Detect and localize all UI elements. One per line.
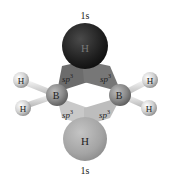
svg-text:H: H <box>20 104 27 114</box>
bridging-h-bottom: H <box>63 117 107 161</box>
svg-text:H: H <box>18 76 25 86</box>
svg-text:H: H <box>81 42 89 54</box>
svg-text:H: H <box>147 76 154 86</box>
boron-left: B <box>46 84 68 106</box>
bridging-h-top: H <box>62 23 108 69</box>
boron-right: B <box>109 84 131 106</box>
svg-text:B: B <box>53 90 60 101</box>
svg-text:B: B <box>116 90 123 101</box>
bottom-orbital-label: 1s <box>81 165 90 176</box>
terminal-h-upper-left: H <box>13 72 29 88</box>
svg-text:H: H <box>81 135 89 147</box>
terminal-h-lower-left: H <box>15 100 31 116</box>
diborane-bonding-diagram: 1s H H B B H H <box>0 0 170 179</box>
terminal-h-upper-right: H <box>142 72 158 88</box>
terminal-h-lower-right: H <box>141 100 157 116</box>
svg-text:H: H <box>146 104 153 114</box>
top-orbital-label: 1s <box>81 10 90 21</box>
